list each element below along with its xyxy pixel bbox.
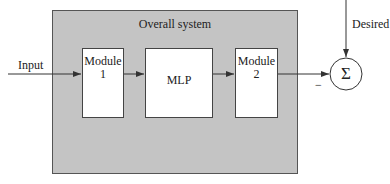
desired-label: Desired [352, 17, 389, 32]
connector-lines [0, 0, 390, 184]
sigma-icon: Σ [334, 64, 358, 84]
input-label: Input [18, 58, 43, 73]
minus-sign: − [315, 78, 322, 93]
